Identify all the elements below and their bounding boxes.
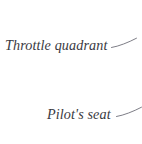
callout-pilot-seat: Pilot's seat bbox=[47, 106, 142, 121]
callout-label-pilot-seat: Pilot's seat bbox=[47, 107, 111, 121]
leader-line-icon-throttle-quadrant bbox=[111, 37, 137, 49]
callout-figure: Throttle quadrant Pilot's seat bbox=[0, 0, 142, 144]
callout-throttle-quadrant: Throttle quadrant bbox=[5, 37, 137, 52]
callout-label-throttle-quadrant: Throttle quadrant bbox=[5, 38, 107, 52]
leader-line-icon-pilot-seat bbox=[116, 106, 142, 118]
